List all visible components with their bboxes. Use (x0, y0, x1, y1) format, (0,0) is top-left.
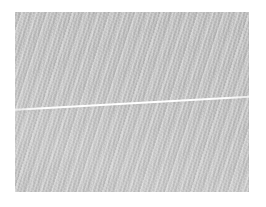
image-canvas (0, 0, 266, 207)
textured-plate (15, 12, 249, 192)
